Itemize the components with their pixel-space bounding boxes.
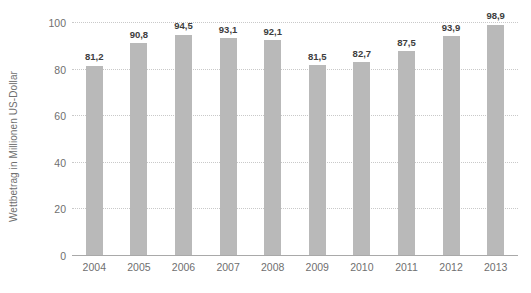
x-tick-label-2008: 2008 xyxy=(250,258,295,278)
bar-group-2012[interactable]: 93,9 xyxy=(429,22,474,255)
bar-2006[interactable] xyxy=(175,35,192,255)
bar-value-label-2006: 94,5 xyxy=(174,21,193,31)
bar-value-label-2005: 90,8 xyxy=(130,30,149,40)
bar-value-label-2012: 93,9 xyxy=(442,23,461,33)
bar-value-label-2007: 93,1 xyxy=(219,25,238,35)
x-tick-label-2005: 2005 xyxy=(117,258,162,278)
x-axis-tick-labels: 2004200520062007200820092010201120122013 xyxy=(72,258,518,278)
y-tick-label-20: 20 xyxy=(32,204,66,215)
bars-layer: 81,290,894,593,192,181,582,787,593,998,9 xyxy=(72,22,518,255)
bar-2005[interactable] xyxy=(130,43,147,255)
y-tick-label-100: 100 xyxy=(32,18,66,29)
bar-2011[interactable] xyxy=(398,51,415,255)
bar-value-label-2013: 98,9 xyxy=(486,11,505,21)
y-tick-label-80: 80 xyxy=(32,64,66,75)
bar-group-2004[interactable]: 81,2 xyxy=(72,22,117,255)
y-tick-label-40: 40 xyxy=(32,158,66,169)
bar-group-2007[interactable]: 93,1 xyxy=(206,22,251,255)
bar-group-2011[interactable]: 87,5 xyxy=(384,22,429,255)
x-tick-label-2010: 2010 xyxy=(340,258,385,278)
bar-value-label-2009: 81,5 xyxy=(308,52,327,62)
x-tick-label-2011: 2011 xyxy=(384,258,429,278)
bar-2007[interactable] xyxy=(220,38,237,255)
bar-chart: Wettbetrag in Millionen US-Dollar 020406… xyxy=(0,0,531,293)
y-axis-title: Wettbetrag in Millionen US-Dollar xyxy=(0,0,26,293)
bar-group-2006[interactable]: 94,5 xyxy=(161,22,206,255)
bar-2010[interactable] xyxy=(353,62,370,255)
bar-2012[interactable] xyxy=(443,36,460,255)
x-tick-label-2012: 2012 xyxy=(429,258,474,278)
x-tick-label-2004: 2004 xyxy=(72,258,117,278)
bar-group-2005[interactable]: 90,8 xyxy=(117,22,162,255)
bar-value-label-2011: 87,5 xyxy=(397,38,416,48)
bar-2004[interactable] xyxy=(86,66,103,255)
bar-2008[interactable] xyxy=(264,40,281,255)
bar-value-label-2008: 92,1 xyxy=(263,27,282,37)
y-tick-label-0: 0 xyxy=(32,251,66,262)
bar-2013[interactable] xyxy=(487,25,504,255)
bar-group-2010[interactable]: 82,7 xyxy=(340,22,385,255)
x-tick-label-2013: 2013 xyxy=(473,258,518,278)
x-tick-label-2009: 2009 xyxy=(295,258,340,278)
x-tick-label-2007: 2007 xyxy=(206,258,251,278)
bar-group-2013[interactable]: 98,9 xyxy=(473,22,518,255)
x-tick-label-2006: 2006 xyxy=(161,258,206,278)
gridline-0: 0 xyxy=(72,255,518,256)
bar-value-label-2010: 82,7 xyxy=(353,49,372,59)
y-tick-label-60: 60 xyxy=(32,111,66,122)
plot-area: 020406080100 81,290,894,593,192,181,582,… xyxy=(72,22,518,255)
bar-2009[interactable] xyxy=(309,65,326,255)
bar-value-label-2004: 81,2 xyxy=(85,52,104,62)
bar-group-2009[interactable]: 81,5 xyxy=(295,22,340,255)
bar-group-2008[interactable]: 92,1 xyxy=(250,22,295,255)
